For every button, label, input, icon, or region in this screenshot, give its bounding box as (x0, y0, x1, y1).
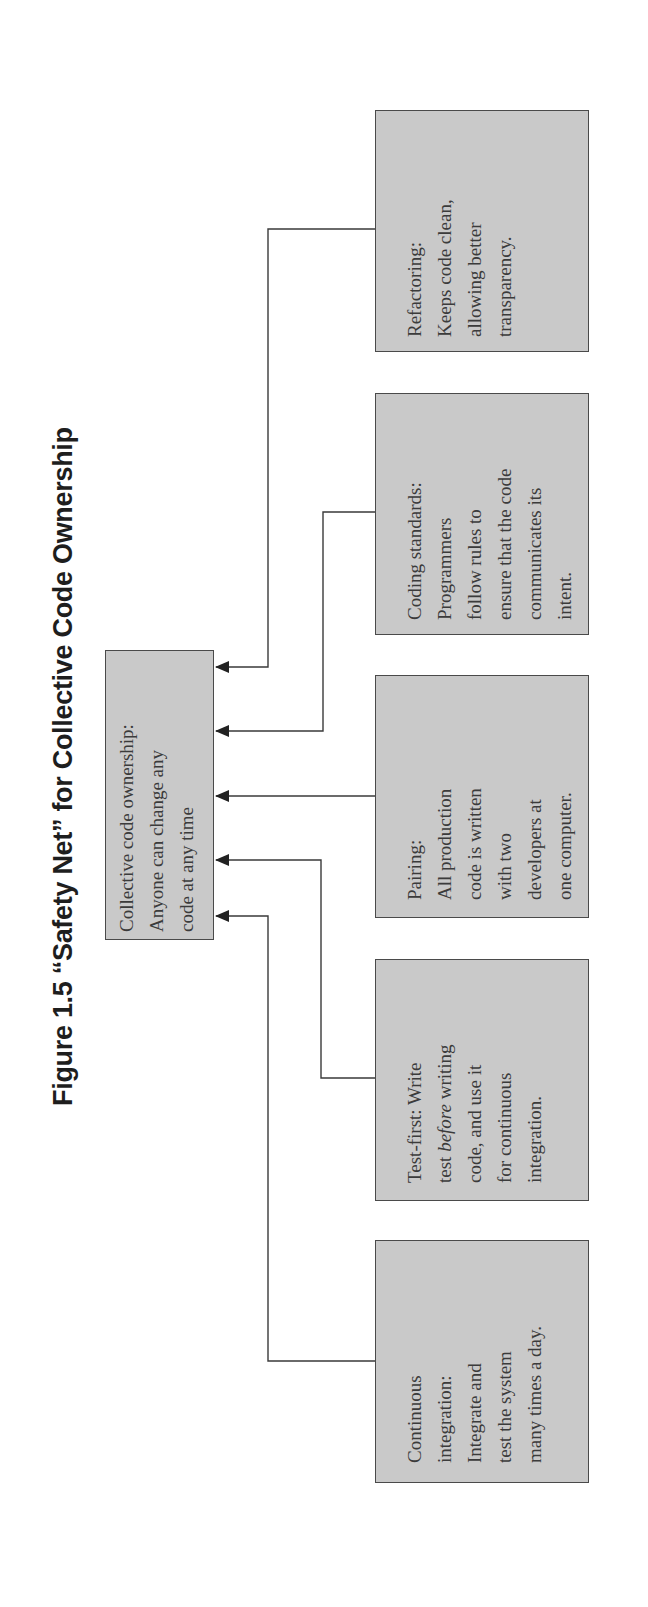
practice-text-coding-standards: Coding standards: Programmers follow rul… (400, 400, 580, 620)
center-line-2: Anyone can change any (142, 657, 172, 932)
text-line: integration: (430, 1243, 460, 1463)
text-line-emphasis: test before writing (430, 963, 460, 1183)
center-line-3: code at any time (172, 657, 202, 932)
practice-text-pairing: Pairing: All production code is written … (400, 680, 580, 900)
practice-text-refactoring: Refactoring: Keeps code clean, allowing … (400, 117, 520, 337)
text-line: test the system (490, 1243, 520, 1463)
text-line: code, and use it (460, 963, 490, 1183)
text-line: ensure that the code (490, 400, 520, 620)
text-fragment: test (434, 1152, 455, 1183)
text-line: All production (430, 680, 460, 900)
text-line: with two (490, 680, 520, 900)
connector-continuous-integration (216, 916, 375, 1361)
text-line: Coding standards: (400, 400, 430, 620)
practice-text-continuous-integration: Continuous integration: Integrate and te… (400, 1243, 550, 1463)
text-line: Keeps code clean, (430, 117, 460, 337)
text-line: allowing better (460, 117, 490, 337)
text-line: for continuous (490, 963, 520, 1183)
text-line: communicates its (520, 400, 550, 620)
diagram-canvas: Figure 1.5 “Safety Net” for Collective C… (0, 0, 648, 1607)
text-line: Test-first: Write (400, 963, 430, 1183)
text-line: follow rules to (460, 400, 490, 620)
connector-test-first (216, 860, 375, 1078)
text-line: many times a day. (520, 1243, 550, 1463)
text-line: developers at (520, 680, 550, 900)
practice-text-test-first: Test-first: Write test before writing co… (400, 963, 550, 1183)
text-line: integration. (520, 963, 550, 1183)
text-line: Pairing: (400, 680, 430, 900)
text-line: Programmers (430, 400, 460, 620)
text-line: intent. (550, 400, 580, 620)
text-line: code is written (460, 680, 490, 900)
text-line: Integrate and (460, 1243, 490, 1463)
emphasis-before: before (434, 1104, 455, 1152)
connector-refactoring (216, 229, 375, 667)
text-line: Refactoring: (400, 117, 430, 337)
text-line: transparency. (490, 117, 520, 337)
text-line: one computer. (550, 680, 580, 900)
center-node-text: Collective code ownership: Anyone can ch… (112, 657, 202, 932)
text-line: Continuous (400, 1243, 430, 1463)
connector-coding-standards (216, 512, 375, 731)
text-fragment: writing (434, 1044, 455, 1104)
center-line-1: Collective code ownership: (112, 657, 142, 932)
